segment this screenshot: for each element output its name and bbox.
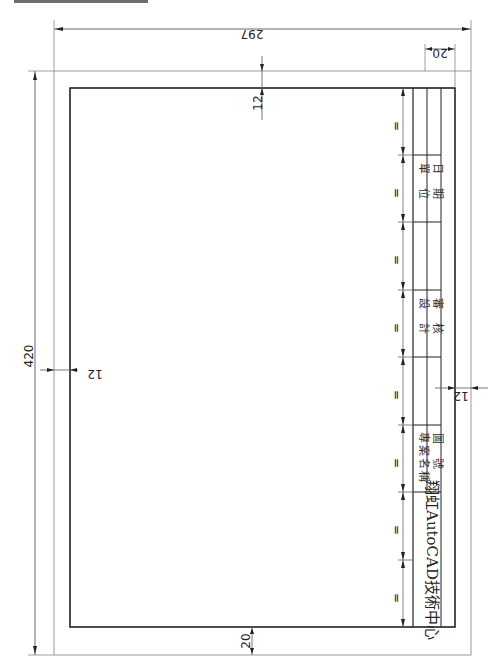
unit-label: 單位: [417, 163, 431, 213]
design-label: 設計: [417, 298, 431, 348]
dimension-420: 420: [22, 71, 54, 655]
dimension-297: 297: [54, 20, 471, 71]
svg-text:=: =: [390, 188, 404, 198]
drawing-no-label: 圖號: [431, 433, 444, 483]
dimension-20-top: 20: [425, 44, 455, 88]
dimension-420-label: 420: [22, 345, 36, 368]
sheet-outline: [54, 71, 471, 655]
dimension-297-label: 297: [241, 27, 264, 41]
dimension-12-left: 12: [40, 367, 103, 381]
review-label: 審核: [431, 298, 445, 348]
svg-text:=: =: [390, 323, 404, 333]
date-label: 日期: [431, 163, 444, 213]
svg-text:=: =: [390, 525, 404, 535]
svg-text:=: =: [390, 390, 404, 400]
dimension-12-left-label: 12: [87, 367, 102, 381]
company-logo-text: 翔虹AutoCAD技術中心: [423, 480, 441, 640]
dimension-12-right-label: 12: [453, 389, 468, 403]
title-block-labels: 單位 日期 設計 審核 專案名稱 圖號: [417, 163, 445, 484]
svg-text:=: =: [390, 458, 404, 468]
drawing-sheet: = = = = = = = = 297 20 420: [0, 0, 500, 668]
project-name-label: 專案名稱: [417, 432, 431, 484]
dimension-12-right: 12: [435, 386, 488, 403]
equal-mark: =: [390, 121, 404, 131]
equal-division-chain: [398, 88, 413, 627]
dimension-20-label: 20: [432, 46, 447, 60]
svg-text:=: =: [390, 593, 404, 603]
drawing-border: [70, 88, 455, 627]
dimension-12-top-label: 12: [251, 95, 265, 110]
dimension-20-bottom-label: 20: [239, 633, 253, 648]
svg-text:=: =: [390, 255, 404, 265]
dimension-20-bottom: 20: [239, 627, 254, 655]
